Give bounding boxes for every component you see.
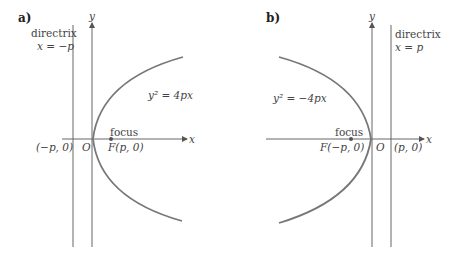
panel-b: b) y x directrix x = p y² = −4px focus F…: [266, 10, 441, 247]
parabola-diagram: a) y x directrix x = −p y² = 4px focus F…: [0, 0, 450, 255]
x-axis-label: x: [426, 133, 432, 145]
directrix-point-label: (−p, 0): [36, 141, 73, 153]
panel-a: a) y x directrix x = −p y² = 4px focus F…: [18, 10, 195, 247]
panel-b-label: b): [266, 11, 280, 25]
parabola-equation: y² = 4px: [147, 89, 193, 101]
directrix-point-label: (p, 0): [394, 141, 422, 153]
y-axis-label: y: [88, 10, 96, 22]
directrix-title: directrix: [395, 28, 441, 40]
focus-title: focus: [110, 126, 138, 138]
origin-label: O: [82, 141, 91, 153]
parabola-equation: y² = −4px: [272, 92, 327, 104]
focus-title: focus: [335, 126, 363, 138]
origin-label: O: [376, 141, 385, 153]
focus-label: F(p, 0): [107, 141, 144, 153]
focus-label: F(−p, 0): [319, 141, 364, 153]
panel-a-label: a): [18, 11, 31, 25]
directrix-equation: x = −p: [37, 40, 74, 52]
directrix-equation: x = p: [395, 41, 423, 53]
directrix-title: directrix: [31, 27, 77, 39]
x-axis-label: x: [189, 133, 195, 145]
y-axis-label: y: [368, 10, 376, 22]
parabola-curve: [279, 57, 371, 223]
